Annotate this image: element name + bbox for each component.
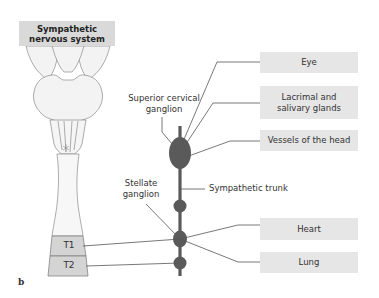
figure-letter: b <box>18 277 24 287</box>
line-vessels <box>186 141 260 157</box>
pointer-stellate <box>146 204 178 237</box>
middle-ganglion <box>174 200 187 213</box>
brain-illustration <box>26 46 110 122</box>
target-label: Eye <box>301 57 317 68</box>
target-lung: Lung <box>260 252 358 273</box>
label-line: ganglion <box>116 189 166 200</box>
target-vessels-of-head: Vessels of the head <box>260 130 358 151</box>
label-line: ganglion <box>124 104 204 115</box>
title-line-1: Sympathetic <box>19 24 115 34</box>
label-superior-cervical-ganglion: Superior cervical ganglion <box>124 93 204 115</box>
label-stellate-ganglion: Stellate ganglion <box>116 178 166 200</box>
target-label: salivary glands <box>277 103 341 114</box>
target-label: Lung <box>299 257 320 268</box>
diagram-title: Sympathetic nervous system <box>19 21 115 46</box>
label-line: Superior cervical <box>124 93 204 104</box>
line-heart <box>83 225 260 246</box>
target-heart: Heart <box>260 218 358 240</box>
title-line-2: nervous system <box>19 34 115 44</box>
segment-label-t1: T1 <box>54 240 84 250</box>
label-line: Stellate <box>116 178 166 189</box>
target-eye: Eye <box>260 52 358 73</box>
target-label: Lacrimal and <box>281 92 336 103</box>
label-sympathetic-trunk: Sympathetic trunk <box>209 183 288 194</box>
target-label: Heart <box>297 224 321 235</box>
target-lacrimal-salivary-glands: Lacrimal and salivary glands <box>260 86 358 119</box>
line-stellate-lung <box>180 239 260 262</box>
brainstem-illustration <box>50 120 86 154</box>
segment-label-t2: T2 <box>52 260 86 270</box>
target-label: Vessels of the head <box>268 135 351 146</box>
spinal-cord <box>52 154 83 236</box>
line-lung <box>86 263 180 266</box>
